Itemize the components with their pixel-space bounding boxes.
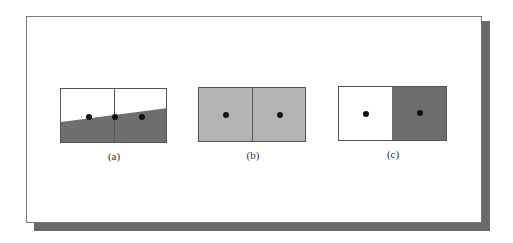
sample-dot — [112, 114, 118, 120]
sample-dot — [277, 112, 283, 118]
sample-dot — [223, 112, 229, 118]
caption-a: (a) — [94, 150, 134, 162]
sample-dot — [139, 114, 145, 120]
sample-dot — [86, 114, 92, 120]
caption-b: (b) — [233, 149, 273, 161]
sample-dot — [363, 111, 369, 117]
panel-b-divider — [252, 88, 253, 141]
sample-dot — [417, 110, 423, 116]
panel-a — [60, 88, 167, 143]
caption-c: (c) — [373, 148, 413, 160]
panel-b — [198, 87, 306, 142]
panel-c — [338, 86, 447, 141]
